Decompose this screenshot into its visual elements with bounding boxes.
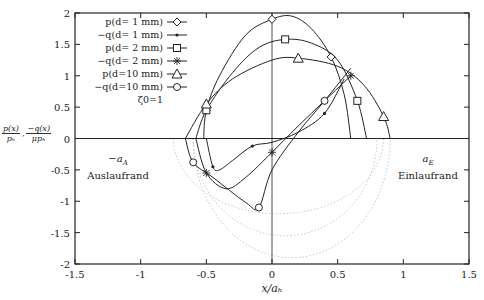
y-label-num-q: −q(x) [26,124,51,134]
y-label-den-p: pₕ [7,134,16,143]
y-label-separator: , [22,129,25,138]
x-tick-label: -1 [136,269,146,280]
circle-marker-icon [321,97,328,104]
star-marker-icon [268,148,276,156]
y-tick-label: 1 [64,71,70,82]
series-line [196,76,351,189]
annotation-left-text: Auslaufrand [86,170,149,181]
y-tick-label: 0 [64,134,70,145]
x-tick-label: 1.5 [461,269,477,280]
square-marker-icon [282,36,289,43]
y-tick-label: -0.5 [51,165,70,176]
series-circle [185,68,350,211]
reference-arc-0 [193,139,390,258]
diamond-marker-icon [268,15,276,23]
legend-note: ζ0=1 [138,94,163,105]
legend: p(d= 1 mm)−q(d= 1 mm)p(d= 2 mm)−q(d= 2 m… [94,16,187,105]
y-label-den-q: μpₕ [32,134,46,143]
y-tick-label: -2 [60,259,70,270]
circle-marker-icon [190,159,197,166]
dot-marker-icon [323,112,326,115]
reference-arc-2 [174,139,384,214]
x-tick-label: 0.5 [330,269,346,280]
diamond-marker-icon [173,18,181,26]
y-axis-label: p(x) pₕ , −q(x) μpₕ [2,124,51,143]
dot-marker-icon [251,144,254,147]
legend-label: p(d= 1 mm) [105,16,163,27]
y-label-fraction-p: p(x) pₕ [2,124,20,143]
star-marker-icon [173,57,181,65]
series-line [206,79,344,171]
series-triangle [185,53,390,138]
x-axis-label: x/aₕ [261,282,282,295]
triangle-marker-icon [379,112,389,121]
legend-label: −q(d= 2 mm) [97,55,163,66]
x-tick-label: -1.5 [65,269,84,280]
legend-label: −q(d= 1 mm) [97,29,163,40]
annotation-right-symbol: aE [422,153,433,167]
x-tick-label: 1 [400,269,406,280]
dot-marker-icon [211,165,214,168]
y-label-num-p: p(x) [2,124,20,134]
x-tick-label: -0.5 [197,269,216,280]
square-marker-icon [174,45,181,52]
square-marker-icon [354,97,361,104]
y-tick-label: 2 [64,8,70,19]
annotation-left-symbol: −aA [108,153,127,167]
legend-label: −q(d=10 mm) [94,81,163,92]
legend-label: p(d= 2 mm) [105,42,163,53]
legend-label: p(d=10 mm) [102,68,163,79]
y-tick-label: -1 [60,196,70,207]
y-tick-label: 1.5 [54,39,70,50]
y-tick-label: -1.5 [51,228,70,239]
series-line [204,16,351,139]
series-dot [206,79,344,171]
circle-marker-icon [255,204,262,211]
y-tick-label: 0.5 [54,102,70,113]
x-tick-label: 0 [269,269,275,280]
chart-canvas: -1.5-1-0.500.511.521.510.50-0.5-1-1.5-2x… [0,0,484,300]
annotation-right-text: Einlaufrand [398,170,458,181]
y-label-fraction-q: −q(x) μpₕ [26,124,51,143]
circle-marker-icon [174,84,181,91]
diamond-marker-icon [327,53,335,61]
dot-marker-icon [175,33,178,36]
series-diamond [202,15,350,138]
series-line [196,39,367,138]
